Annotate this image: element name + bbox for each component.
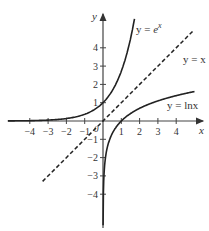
exp-curve bbox=[8, 19, 135, 121]
x-tick-label: 3 bbox=[155, 126, 160, 137]
graph: xy−4−3−2−11234−4−3−2−112340 y = exy = xy… bbox=[0, 0, 209, 231]
y-tick-label: −3 bbox=[87, 170, 98, 181]
y-tick-label: 3 bbox=[93, 61, 98, 72]
identity-label: y = x bbox=[183, 53, 206, 65]
y-axis-label: y bbox=[91, 10, 97, 22]
x-tick-label: 1 bbox=[119, 126, 124, 137]
y-tick-label: 2 bbox=[93, 79, 98, 90]
y-tick-label: 4 bbox=[93, 42, 98, 53]
x-axis-label: x bbox=[198, 124, 204, 136]
x-tick-label: 4 bbox=[174, 126, 179, 137]
axes: xy−4−3−2−11234−4−3−2−112340 bbox=[8, 10, 204, 228]
exp-label: y = ex bbox=[136, 21, 162, 35]
ln-curve bbox=[103, 92, 194, 226]
x-tick-label: 2 bbox=[137, 126, 142, 137]
x-tick-label: −2 bbox=[61, 126, 72, 137]
y-tick-label: −2 bbox=[87, 152, 98, 163]
y-tick-label: 1 bbox=[93, 97, 98, 108]
x-tick-label: −3 bbox=[43, 126, 54, 137]
x-tick-label: −4 bbox=[24, 126, 35, 137]
ln-label: y = lnx bbox=[167, 99, 199, 111]
y-tick-label: −4 bbox=[87, 189, 98, 200]
